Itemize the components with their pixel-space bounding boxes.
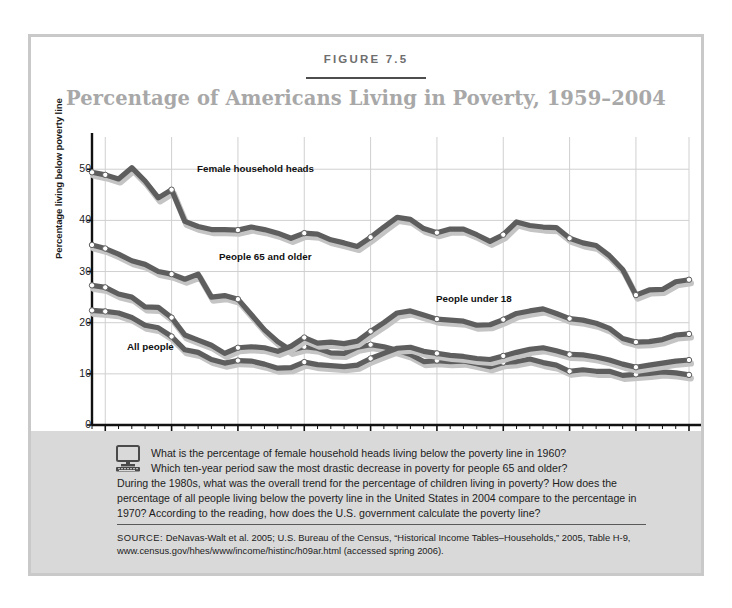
annotation-people-65-and-older: People 65 and older (219, 251, 312, 262)
question-line-1: What is the percentage of female househo… (117, 446, 647, 461)
source-divider-rule (117, 524, 646, 525)
figure-number-label: FIGURE 7.5 (31, 53, 701, 65)
question-body: During the 1980s, what was the overall t… (117, 477, 636, 519)
annotation-female-household-heads: Female household heads (197, 163, 314, 174)
question-line-2: Which ten-year period saw the most drast… (117, 461, 647, 476)
y-tick-20: 20 (69, 316, 91, 328)
annotation-all-people: All people (127, 341, 174, 352)
source-citation: SOURCE: DeNavas-Walt et al. 2005; U.S. B… (117, 531, 653, 558)
figure-container: FIGURE 7.5 Percentage of Americans Livin… (28, 34, 704, 576)
y-axis-tick-labels: 01020304050 (67, 107, 91, 431)
annotation-people-under-18: People under 18 (436, 293, 512, 304)
line-chart: Percentage living below poverty line 010… (31, 107, 707, 431)
y-axis-title: Percentage living below poverty line (53, 247, 64, 259)
figure-divider-rule (306, 77, 426, 79)
source-text: DeNavas-Walt et al. 2005; U.S. Bureau of… (117, 532, 630, 556)
source-keyword: SOURCE: (117, 532, 163, 543)
question-panel: What is the percentage of female househo… (31, 431, 701, 573)
y-tick-10: 10 (69, 367, 91, 379)
chart-plot-area (31, 107, 707, 431)
y-tick-0: 0 (69, 418, 91, 430)
question-text: What is the percentage of female househo… (117, 446, 647, 521)
y-tick-30: 30 (69, 265, 91, 277)
y-tick-40: 40 (69, 213, 91, 225)
y-tick-50: 50 (69, 162, 91, 174)
